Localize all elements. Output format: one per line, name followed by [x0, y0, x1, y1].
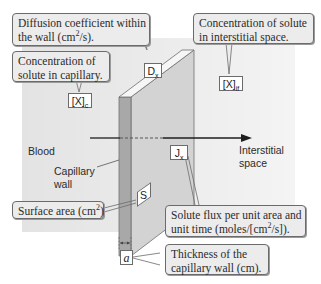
symbol-diffusion-coefficient: Dx: [144, 63, 162, 78]
callout-text: solute in capillary.: [18, 68, 104, 82]
label-capillary-wall: Capillary wall: [54, 165, 95, 191]
callout-wall-thickness: Thickness of the capillary wall (cm).: [165, 244, 269, 275]
label-blood: Blood: [28, 145, 55, 158]
capillary-diffusion-diagram: Diffusion coefficient within the wall (c…: [0, 0, 321, 284]
callout-text: Concentration of: [18, 54, 104, 68]
callout-text: capillary wall (cm).: [171, 261, 263, 275]
callout-text: the wall (cm2/s).: [18, 30, 144, 44]
callout-text: in interstitial space.: [199, 30, 308, 44]
symbol-capillary-concentration: [X]c: [68, 93, 92, 108]
callout-interstitial-concentration: Concentration of solute in interstitial …: [193, 13, 314, 44]
arrow-head-icon: [241, 134, 252, 142]
wall-thickness-edge: [119, 97, 131, 256]
symbol-wall-thickness: a: [120, 250, 133, 265]
symbol-solute-flux: Jx: [170, 145, 188, 160]
callout-text: unit time (moles/[cm2/s]).: [171, 222, 300, 236]
label-interstitial-space: Interstitial space: [239, 144, 284, 170]
callout-text: Concentration of solute: [199, 16, 308, 30]
callout-text: Solute flux per unit area and: [171, 208, 300, 222]
callout-diffusion-coefficient: Diffusion coefficient within the wall (c…: [12, 13, 150, 46]
symbol-interstitial-concentration: [X]if: [219, 76, 243, 91]
callout-text: Thickness of the: [171, 247, 263, 261]
callout-surface-area: Surface area (cm2): [12, 201, 104, 219]
callout-text: Diffusion coefficient within: [18, 16, 144, 30]
callout-capillary-concentration: Concentration of solute in capillary.: [12, 51, 110, 82]
callout-solute-flux: Solute flux per unit area and unit time …: [165, 205, 306, 237]
